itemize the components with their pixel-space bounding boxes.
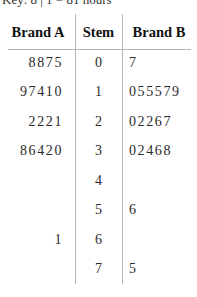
table-row: 7 5: [0, 261, 197, 289]
table-row: 4: [0, 173, 197, 201]
brand-b-leaves: 5: [129, 261, 138, 277]
table-row: 8875 0 7: [0, 55, 197, 83]
brand-a-leaves: 2221: [29, 114, 63, 130]
table-row: 1 6: [0, 232, 197, 260]
header-divider: [8, 49, 191, 50]
stem-leaf-key: Key: 8 | 1 = 81 hours: [2, 0, 112, 8]
brand-b-leaves: 7: [129, 55, 138, 71]
stem-value: 1: [75, 84, 122, 100]
stem-value: 5: [75, 202, 122, 218]
stem-value: 3: [75, 143, 122, 159]
table-row: 2221 2 02267: [0, 114, 197, 142]
brand-b-leaves: 055579: [129, 84, 181, 100]
brand-b-leaves: 02267: [129, 114, 172, 130]
header-stem: Stem: [75, 24, 122, 41]
stem-value: 6: [75, 232, 122, 248]
stem-value: 4: [75, 173, 122, 189]
brand-b-leaves: 6: [129, 202, 138, 218]
brand-a-leaves: 86420: [20, 143, 63, 159]
brand-a-leaves: 1: [54, 232, 63, 248]
brand-a-leaves: 97410: [20, 84, 63, 100]
table-row: 5 6: [0, 202, 197, 230]
stem-value: 0: [75, 55, 122, 71]
stem-value: 2: [75, 114, 122, 130]
header-brand-b: Brand B: [124, 24, 194, 41]
table-row: 97410 1 055579: [0, 84, 197, 112]
brand-a-leaves: 8875: [29, 55, 63, 71]
brand-b-leaves: 02468: [129, 143, 172, 159]
table-row: 86420 3 02468: [0, 143, 197, 171]
header-brand-a: Brand A: [4, 24, 72, 41]
stem-value: 7: [75, 261, 122, 277]
